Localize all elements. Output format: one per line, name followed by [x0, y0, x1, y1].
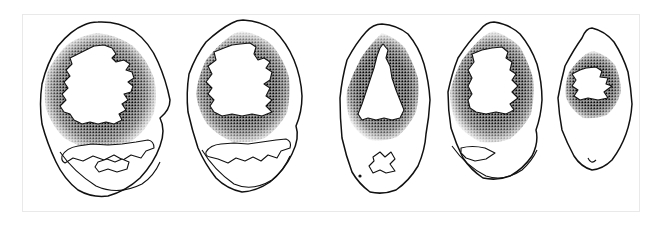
panel-3 [340, 24, 430, 193]
panel-5 [558, 28, 632, 170]
panel-1 [41, 22, 171, 196]
specimen-canvas [0, 0, 663, 229]
figure-root: series of five transverse cross-sections [0, 0, 663, 229]
panel-2 [187, 20, 302, 192]
panel-3-basal-dot [358, 174, 361, 177]
panel-1-lower-inner-lobe [95, 159, 129, 172]
panel-4 [448, 22, 542, 179]
